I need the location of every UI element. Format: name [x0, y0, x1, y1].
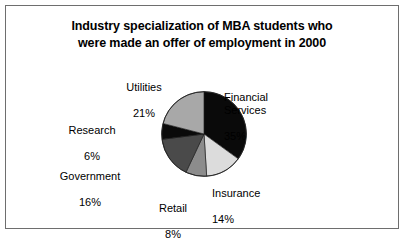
- pie-label-financial-services-value: 35%: [224, 130, 320, 143]
- pie-label-financial-services: Financial Services 35%: [224, 78, 320, 156]
- pie-label-research-name: Research: [50, 124, 134, 137]
- pie-label-insurance-name: Insurance: [212, 187, 308, 200]
- pie-label-insurance-value: 14%: [212, 213, 308, 226]
- pie-label-retail: Retail 8%: [137, 189, 209, 237]
- pie-label-research: Research 6%: [50, 111, 134, 176]
- pie-label-utilities-name: Utilities: [98, 81, 190, 94]
- pie-label-financial-services-name: Financial Services: [224, 91, 320, 117]
- pie-label-retail-value: 8%: [137, 228, 209, 237]
- pie-label-research-value: 6%: [50, 150, 134, 163]
- pie-label-government-value: 16%: [42, 196, 138, 209]
- pie-label-retail-name: Retail: [137, 202, 209, 215]
- pie-chart: Financial Services 35% Utilities 21% Ins…: [6, 6, 400, 230]
- pie-label-insurance: Insurance 14%: [212, 174, 308, 237]
- chart-frame: Industry specialization of MBA students …: [5, 5, 399, 229]
